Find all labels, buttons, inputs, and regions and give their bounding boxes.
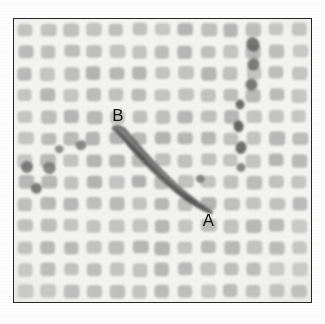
micrograph-canvas: B A bbox=[14, 19, 311, 302]
caption-remnant: ◦ ◦ ◦ bbox=[13, 311, 312, 324]
figure-root: B A ◦ ◦ ◦ bbox=[0, 0, 325, 324]
micrograph-frame: B A bbox=[13, 18, 312, 303]
fiber-endpoint-label-b: B bbox=[112, 106, 123, 125]
fiber-endpoint-label-a: A bbox=[203, 211, 215, 230]
caption-remnant-text: ◦ ◦ ◦ bbox=[13, 311, 312, 314]
